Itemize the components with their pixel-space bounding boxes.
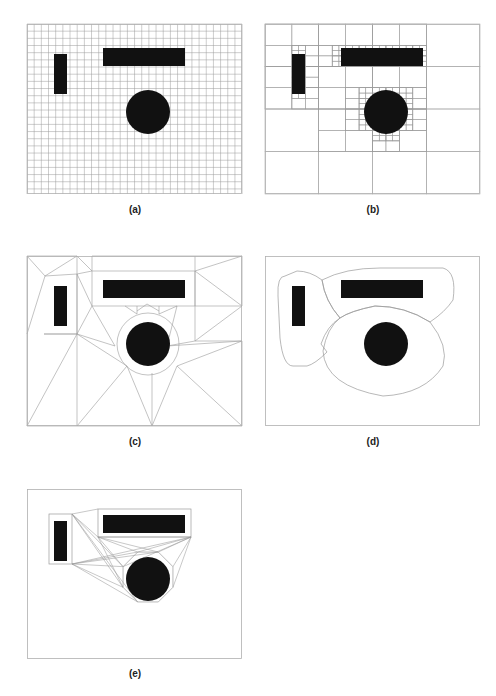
obstacle-horizontal-bar [103,515,185,533]
panel-label-b: (b) [343,204,403,215]
obstacle-horizontal-bar [341,48,423,66]
obstacle-vertical-bar [292,54,305,94]
obstacle-disk [364,322,408,366]
obstacle-vertical-bar [54,521,67,561]
region-left [278,271,340,366]
visibility-graph-diagram [27,489,242,659]
panel-label-c: (c) [105,436,165,447]
quadtree-diagram [265,24,480,194]
obstacle-disk [126,557,170,601]
panel-label-e: (e) [105,668,165,679]
obstacle-horizontal-bar [103,48,185,66]
obstacle-vertical-bar [54,286,67,326]
obstacle-horizontal-bar [341,280,423,298]
obstacle-vertical-bar [54,54,67,94]
grid-diagram [27,24,242,194]
obstacle-disk [126,90,170,134]
triangulation-diagram [27,256,242,426]
regions-diagram [265,256,480,426]
obstacle-disk [364,90,408,134]
obstacle-horizontal-bar [103,280,185,298]
panel-label-a: (a) [105,204,165,215]
obstacle-vertical-bar [292,286,305,326]
panel-label-d: (d) [343,436,403,447]
obstacle-disk [126,322,170,366]
